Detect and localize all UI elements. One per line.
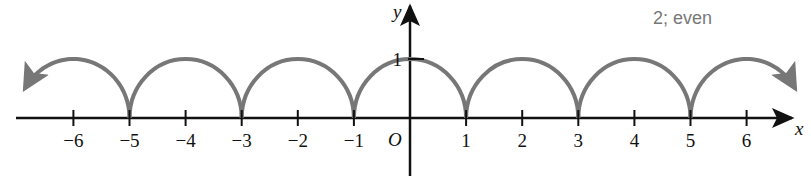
x-tick-label: −3 (232, 130, 252, 151)
x-tick-label: 1 (461, 130, 471, 151)
x-tick-label: 6 (742, 130, 752, 151)
arch (578, 59, 690, 118)
x-axis-label: x (794, 118, 804, 139)
x-tick-label: 3 (574, 130, 584, 151)
right-arrow-arch (691, 59, 796, 118)
arch (130, 59, 242, 118)
origin-label: O (388, 129, 402, 150)
annotation-text: 2; even (653, 8, 712, 29)
arch (242, 59, 354, 118)
y-axis-label: y (391, 1, 402, 22)
arch (466, 59, 578, 118)
x-tick-label: 4 (630, 130, 640, 151)
x-tick-label: −1 (344, 130, 364, 151)
left-arrow-arch (25, 59, 130, 118)
x-tick-label: −2 (288, 130, 308, 151)
y-tick-label: 1 (393, 49, 403, 70)
x-tick-label: 5 (686, 130, 696, 151)
x-tick-label: −5 (119, 130, 139, 151)
x-tick-label: −4 (175, 130, 196, 151)
x-tick-label: 2 (517, 130, 527, 151)
x-tick-label: −6 (63, 130, 83, 151)
